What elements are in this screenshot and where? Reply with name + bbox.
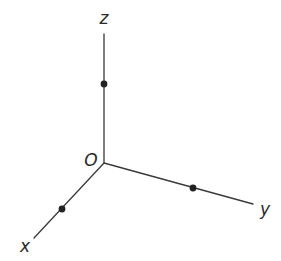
y-axis-label: y <box>259 199 271 219</box>
x-axis-label: x <box>19 236 31 256</box>
x-axis-point <box>59 206 66 213</box>
axes-diagram: z O y x <box>0 0 281 261</box>
x-axis-line <box>34 163 104 238</box>
origin-label: O <box>84 150 97 170</box>
y-axis-line <box>104 163 253 204</box>
z-axis-label: z <box>99 8 110 28</box>
y-axis-point <box>190 185 197 192</box>
z-axis-point <box>101 81 108 88</box>
